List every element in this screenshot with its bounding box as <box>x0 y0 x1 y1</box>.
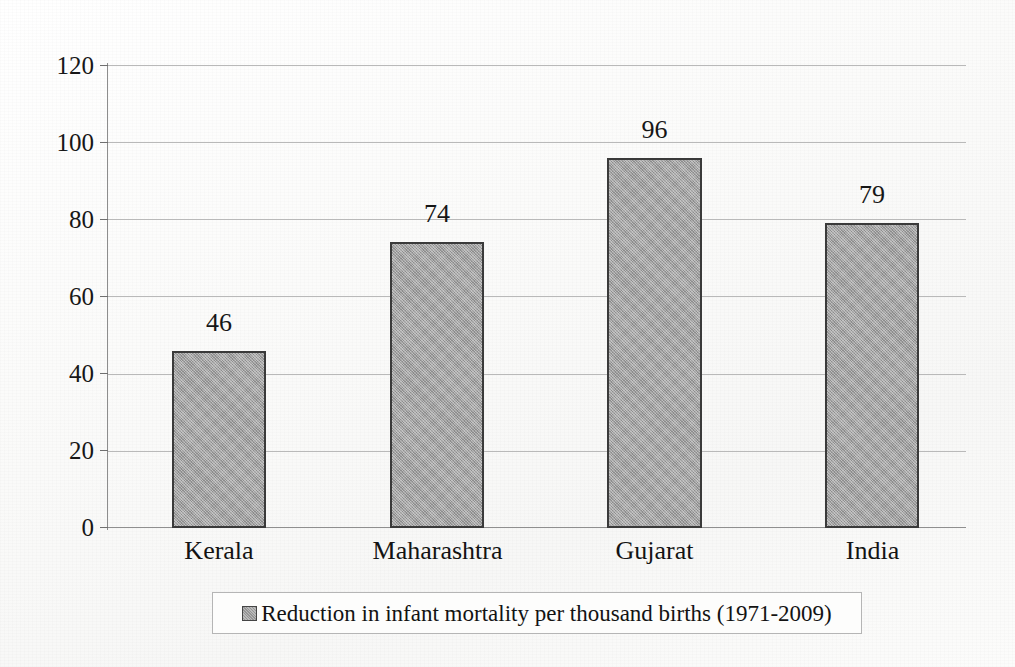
y-axis-tick-label-80: 80 <box>20 207 94 232</box>
y-axis-tick-mark-60 <box>100 296 108 297</box>
y-axis-tick-mark-40 <box>100 373 108 374</box>
gridline-80 <box>108 219 966 220</box>
plot-area <box>108 65 966 528</box>
y-axis-tick-label-100: 100 <box>20 130 94 155</box>
bar-value-kerala: 46 <box>172 310 266 336</box>
y-axis-tick-mark-80 <box>100 219 108 220</box>
x-axis-label-india: India <box>795 538 950 564</box>
y-axis-tick-label-60: 60 <box>20 284 94 309</box>
bar-value-maharashtra: 74 <box>390 201 484 227</box>
legend-item-label: Reduction in infant mortality per thousa… <box>261 602 831 625</box>
chart-legend: Reduction in infant mortality per thousa… <box>212 592 862 634</box>
bar-maharashtra[interactable] <box>390 242 484 528</box>
bar-gujarat[interactable] <box>607 158 702 528</box>
y-axis-tick-mark-100 <box>100 142 108 143</box>
y-axis-tick-label-40: 40 <box>20 361 94 386</box>
y-axis-tick-label-0: 0 <box>20 515 94 540</box>
bar-kerala[interactable] <box>172 351 266 528</box>
bar-value-gujarat: 96 <box>607 117 702 143</box>
chart-page: 120 100 80 60 40 20 0 46 74 96 79 Kerala… <box>0 0 1015 667</box>
bar-india[interactable] <box>825 223 919 528</box>
gridline-120 <box>108 65 966 66</box>
y-axis-tick-mark-20 <box>100 450 108 451</box>
y-axis-tick-mark-0 <box>100 527 108 528</box>
y-axis-tick-label-120: 120 <box>20 53 94 78</box>
y-axis-tick-label-20: 20 <box>20 438 94 463</box>
x-axis-label-maharashtra: Maharashtra <box>355 538 520 564</box>
legend-swatch-icon <box>242 606 257 621</box>
bar-value-india: 79 <box>825 182 919 208</box>
x-axis-label-kerala: Kerala <box>142 538 296 564</box>
gridline-100 <box>108 142 966 143</box>
x-axis-label-gujarat: Gujarat <box>577 538 732 564</box>
y-axis-tick-mark-120 <box>100 65 108 66</box>
